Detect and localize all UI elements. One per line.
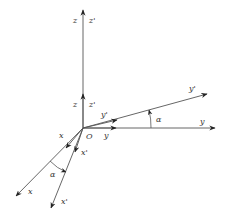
label-y-prime-short: y' <box>100 110 108 119</box>
label-y-long: y <box>199 117 205 126</box>
label-x-short: x <box>59 131 64 140</box>
label-z-prime-long: z' <box>88 16 95 25</box>
label-x-prime-short: x' <box>81 148 88 157</box>
label-alpha-x: α <box>50 170 56 179</box>
label-x-long: x <box>28 187 33 196</box>
x-axis-short <box>66 128 83 148</box>
x-axis-long <box>16 128 83 196</box>
label-z-prime-short: z' <box>88 100 95 109</box>
label-y-prime-long: y' <box>188 84 196 93</box>
x-prime-axis-long <box>51 128 83 208</box>
label-alpha-y: α <box>156 115 162 124</box>
coordinate-rotation-diagram: z z' z z' y y' y y' x x' x x' O α α <box>0 0 225 222</box>
label-x-prime-long: x' <box>61 197 68 206</box>
alpha-arc-y <box>149 110 151 128</box>
label-z-short: z <box>72 100 78 109</box>
label-z-long: z <box>72 16 78 25</box>
label-origin: O <box>86 132 93 141</box>
label-y-short: y <box>103 131 109 140</box>
y-prime-axis-short <box>83 120 117 128</box>
